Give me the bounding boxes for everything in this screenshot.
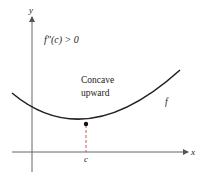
region-label-line1: Concave	[81, 75, 114, 85]
condition-label: f″(c) > 0	[44, 34, 79, 46]
concavity-diagram: y x f″(c) > 0 Concave upward f c	[0, 0, 204, 176]
point-c-label: c	[84, 154, 88, 164]
y-axis-label: y	[28, 5, 33, 15]
x-axis-label: x	[190, 147, 195, 157]
curve-label: f	[165, 97, 169, 107]
minimum-point	[84, 122, 88, 126]
region-label-line2: upward	[81, 88, 110, 98]
